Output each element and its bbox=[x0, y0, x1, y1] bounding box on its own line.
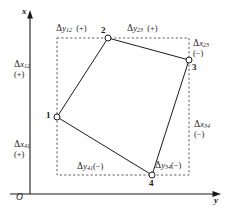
delta-x-41-label: Δx41 (+) bbox=[14, 140, 30, 159]
delta-y-23-label: Δy23 (+) bbox=[127, 24, 158, 34]
vertex-label-3: 3 bbox=[192, 62, 197, 72]
delta-x-23-label: Δx23 (−) bbox=[193, 39, 209, 58]
delta-y-34-label: Δy34(−) bbox=[155, 161, 181, 171]
traverse-polygon bbox=[57, 38, 189, 175]
vertex-label-2: 2 bbox=[101, 25, 106, 35]
origin-label: O bbox=[16, 192, 23, 202]
delta-x-12-label: Δx12 (+) bbox=[14, 60, 30, 79]
x-axis bbox=[27, 10, 33, 194]
vertex-marker-2 bbox=[105, 35, 111, 41]
y-axis bbox=[10, 191, 221, 197]
bounding-rectangle bbox=[57, 38, 189, 175]
x-axis-label: x bbox=[22, 6, 27, 16]
vertex-markers bbox=[54, 35, 192, 178]
y-axis-label: y bbox=[214, 195, 218, 205]
delta-y-12-label: Δy12 (+) bbox=[56, 24, 87, 34]
diagram-canvas bbox=[0, 0, 230, 211]
vertex-marker-1 bbox=[54, 114, 60, 120]
delta-y-41-label: Δy41(−) bbox=[77, 162, 103, 172]
traverse-diagram: x y O 1 2 3 4 Δy12 (+) Δy23 (+) Δx23 (−)… bbox=[0, 0, 230, 211]
vertex-label-4: 4 bbox=[149, 178, 154, 188]
vertex-label-1: 1 bbox=[46, 110, 51, 120]
delta-x-34-label: Δx34 (−) bbox=[194, 120, 210, 139]
